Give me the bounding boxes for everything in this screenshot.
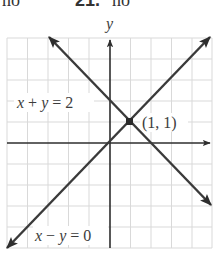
equation-label-x-minus-y-eq-0: x − y = 0	[34, 227, 91, 245]
y-axis-label: y	[104, 15, 114, 33]
coordinate-graph: y x + y = 2 (1, 1) x − y = 0	[0, 0, 216, 260]
equation-label-x-plus-y-eq-2: x + y = 2	[16, 94, 73, 112]
intersection-label: (1, 1)	[142, 114, 177, 132]
intersection-point-marker	[126, 118, 133, 125]
